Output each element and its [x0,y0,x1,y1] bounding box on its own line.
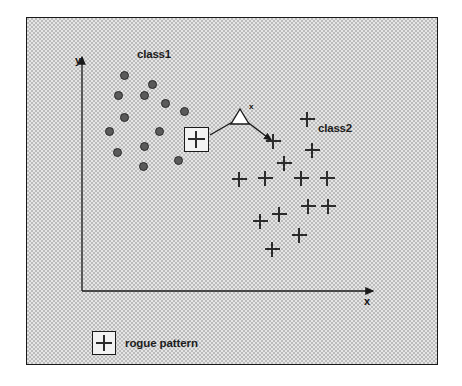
legend: rogue pattern [92,331,198,355]
figure-page: y x class1 class2 x [0,0,462,386]
class2-point [300,112,315,127]
class1-point [161,99,170,108]
class1-point [148,80,157,89]
legend-label: rogue pattern [125,337,198,349]
class2-label: class2 [318,123,352,135]
class1-point [120,71,129,80]
plot-surface: y x class1 class2 x [26,17,438,365]
class1-point [120,113,129,122]
class1-point [180,107,189,116]
x-axis-label: x [364,296,370,307]
class1-point [113,148,122,157]
class1-label: class1 [137,49,171,61]
class2-point [305,143,320,158]
class2-point [253,214,268,229]
class2-point [277,156,292,171]
plus-icon [96,335,112,351]
class2-point [266,134,281,149]
class1-point [155,127,164,136]
open-triangle-icon [231,109,249,124]
class1-point [105,127,114,136]
y-axis-label: y [75,55,81,66]
class1-point [114,91,123,100]
axes-and-connectors [26,17,438,365]
class2-point [294,171,309,186]
class1-point [140,142,149,151]
class2-point [320,171,335,186]
class2-point [292,228,307,243]
legend-plus-in-box-icon [92,331,116,355]
class2-point [301,199,316,214]
rogue-pattern-marker [184,127,209,152]
class1-point [174,156,183,165]
query-marker-label: x [249,103,253,111]
class2-point [265,242,280,257]
class2-point [321,199,336,214]
plus-icon [188,131,205,148]
class2-point [232,172,247,187]
class2-point [258,171,273,186]
class1-point [139,162,148,171]
class1-point [140,91,149,100]
class2-point [272,207,287,222]
